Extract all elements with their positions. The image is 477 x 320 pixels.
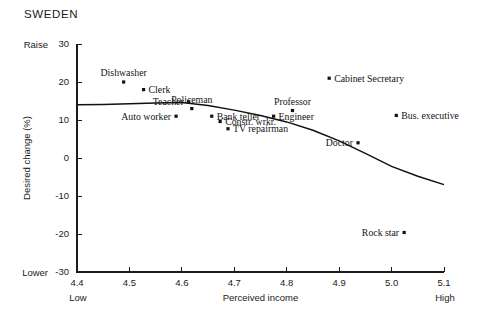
x-tick-label: 5.0: [385, 277, 398, 288]
x-tick-label: 4.7: [228, 277, 241, 288]
y-axis-tick-labels: 3020100-10-20-30: [55, 38, 69, 277]
data-point-marker: [403, 231, 406, 234]
data-point-label: Policeman: [171, 94, 212, 105]
data-point-marker: [210, 115, 213, 118]
y-tick-label: -10: [55, 190, 69, 201]
data-point-label: Auto worker: [121, 111, 172, 122]
data-point-marker: [328, 77, 331, 80]
y-tick-label: -30: [55, 266, 69, 277]
data-point-marker: [356, 141, 359, 144]
x-axis-high-label: High: [435, 292, 455, 303]
x-axis-low-label: Low: [69, 292, 87, 303]
data-point-marker: [395, 114, 398, 117]
y-tick-label: 10: [58, 114, 69, 125]
y-axis-label: Desired change (%): [21, 116, 32, 200]
data-point-label: Doctor: [326, 137, 354, 148]
y-axis-high-label: Raise: [24, 39, 48, 50]
data-point-label: TV repairman: [233, 123, 288, 134]
x-tick-label: 5.1: [437, 277, 450, 288]
data-point-label: Engineer: [279, 111, 315, 122]
y-tick-label: 0: [64, 152, 69, 163]
data-point-label: Cabinet Secretary: [334, 73, 404, 84]
data-point-marker: [142, 88, 145, 91]
scatter-plot: 3020100-10-20-30 4.44.54.64.74.84.95.05.…: [0, 0, 477, 320]
data-point-label: Dishwasher: [101, 67, 148, 78]
data-point-labels: DishwasherClerkTeacherPolicemanAuto work…: [101, 67, 460, 238]
data-point-label: Bus. executive: [401, 110, 459, 121]
x-axis-label: Perceived income: [223, 292, 299, 303]
data-point-label: Professor: [274, 96, 312, 107]
x-tick-label: 4.9: [333, 277, 346, 288]
y-tick-label: 30: [58, 38, 69, 49]
x-tick-label: 4.8: [280, 277, 293, 288]
data-point-marker: [190, 107, 193, 110]
data-point-marker: [122, 80, 125, 83]
data-point-label: Rock star: [362, 227, 400, 238]
data-point-marker: [174, 115, 177, 118]
x-tick-label: 4.6: [175, 277, 188, 288]
chart-page: SWEDEN 3020100-10-20-30 4.44.54.64.74.84…: [0, 0, 477, 320]
x-tick-label: 4.4: [70, 277, 83, 288]
data-point-marker: [226, 127, 229, 130]
y-axis-low-label: Lower: [22, 267, 48, 278]
data-point-label: Clerk: [149, 84, 171, 95]
y-tick-label: -20: [55, 228, 69, 239]
x-axis-tick-labels: 4.44.54.64.74.84.95.05.1: [70, 277, 450, 288]
x-tick-label: 4.5: [123, 277, 136, 288]
y-tick-label: 20: [58, 76, 69, 87]
